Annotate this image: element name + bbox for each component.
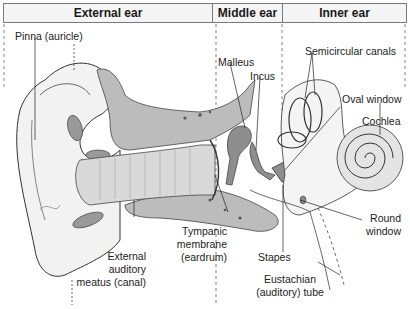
label-incus: Incus bbox=[250, 70, 275, 83]
label-round-window: Round window bbox=[366, 212, 401, 238]
label-stapes: Stapes bbox=[258, 251, 291, 264]
label-cochlea: Cochlea bbox=[362, 115, 401, 128]
label-tympanic-membrane: Tympanic membrane (eardrum) bbox=[160, 225, 227, 264]
label-oval-window: Oval window bbox=[342, 93, 402, 106]
label-malleus: Malleus bbox=[218, 56, 254, 69]
label-eustachian-tube: Eustachian (auditory) tube bbox=[245, 273, 335, 299]
label-external-auditory-meatus: External auditory meatus (canal) bbox=[70, 250, 146, 289]
label-pinna: Pinna (auricle) bbox=[15, 30, 83, 43]
label-semicircular-canals: Semicircular canals bbox=[305, 45, 396, 58]
incus bbox=[250, 142, 275, 180]
cochlea bbox=[337, 125, 403, 191]
malleus bbox=[226, 126, 251, 185]
